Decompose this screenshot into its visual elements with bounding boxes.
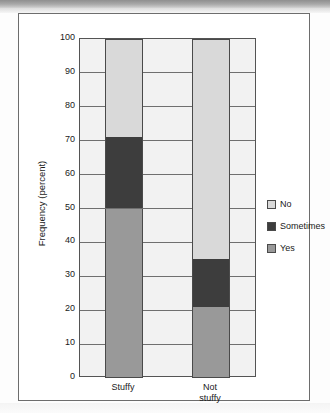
bar-segment-sometimes[interactable]: [192, 259, 230, 306]
x-axis-tick-label: Notstuffy: [175, 382, 245, 404]
y-axis-tick-label: 20: [45, 304, 75, 313]
legend-item-sometimes[interactable]: Sometimes: [267, 221, 325, 232]
legend-label: No: [280, 200, 292, 209]
plot-area: [79, 38, 256, 377]
legend-item-yes[interactable]: Yes: [267, 243, 325, 254]
y-axis-tick-label: 90: [45, 67, 75, 76]
y-axis-title: Frequency (percent): [36, 144, 47, 264]
y-axis-tick-label: 60: [45, 169, 75, 178]
x-axis-tick-label: Stuffy: [88, 382, 158, 393]
y-axis-tick-label: 0: [45, 372, 75, 381]
chart-legend: NoSometimesYes: [267, 199, 325, 265]
y-axis-tick-label: 80: [45, 101, 75, 110]
bar-segment-yes[interactable]: [192, 307, 230, 378]
scan-top-band: [0, 0, 330, 9]
y-axis-tick-label: 10: [45, 338, 75, 347]
figure-frame: 0102030405060708090100 Frequency (percen…: [18, 13, 310, 401]
bar-segment-yes[interactable]: [105, 209, 143, 379]
y-axis-tick-label: 50: [45, 203, 75, 212]
bar-stuffy[interactable]: [105, 39, 143, 378]
y-axis-title-wrapper: Frequency (percent): [21, 38, 39, 377]
y-axis-tick-label: 40: [45, 236, 75, 245]
y-axis-tick-label: 30: [45, 270, 75, 279]
bar-segment-no[interactable]: [192, 39, 230, 259]
scan-bottom-fade: [0, 403, 330, 413]
bar-segment-no[interactable]: [105, 39, 143, 137]
bar-not-stuffy[interactable]: [192, 39, 230, 378]
legend-item-no[interactable]: No: [267, 199, 325, 210]
legend-swatch-icon: [267, 200, 276, 209]
legend-label: Yes: [280, 244, 295, 253]
bar-segment-sometimes[interactable]: [105, 137, 143, 208]
y-axis-tick-label: 70: [45, 135, 75, 144]
legend-label: Sometimes: [280, 222, 325, 231]
y-axis-tick-label: 100: [45, 33, 75, 42]
legend-swatch-icon: [267, 222, 276, 231]
legend-swatch-icon: [267, 244, 276, 253]
